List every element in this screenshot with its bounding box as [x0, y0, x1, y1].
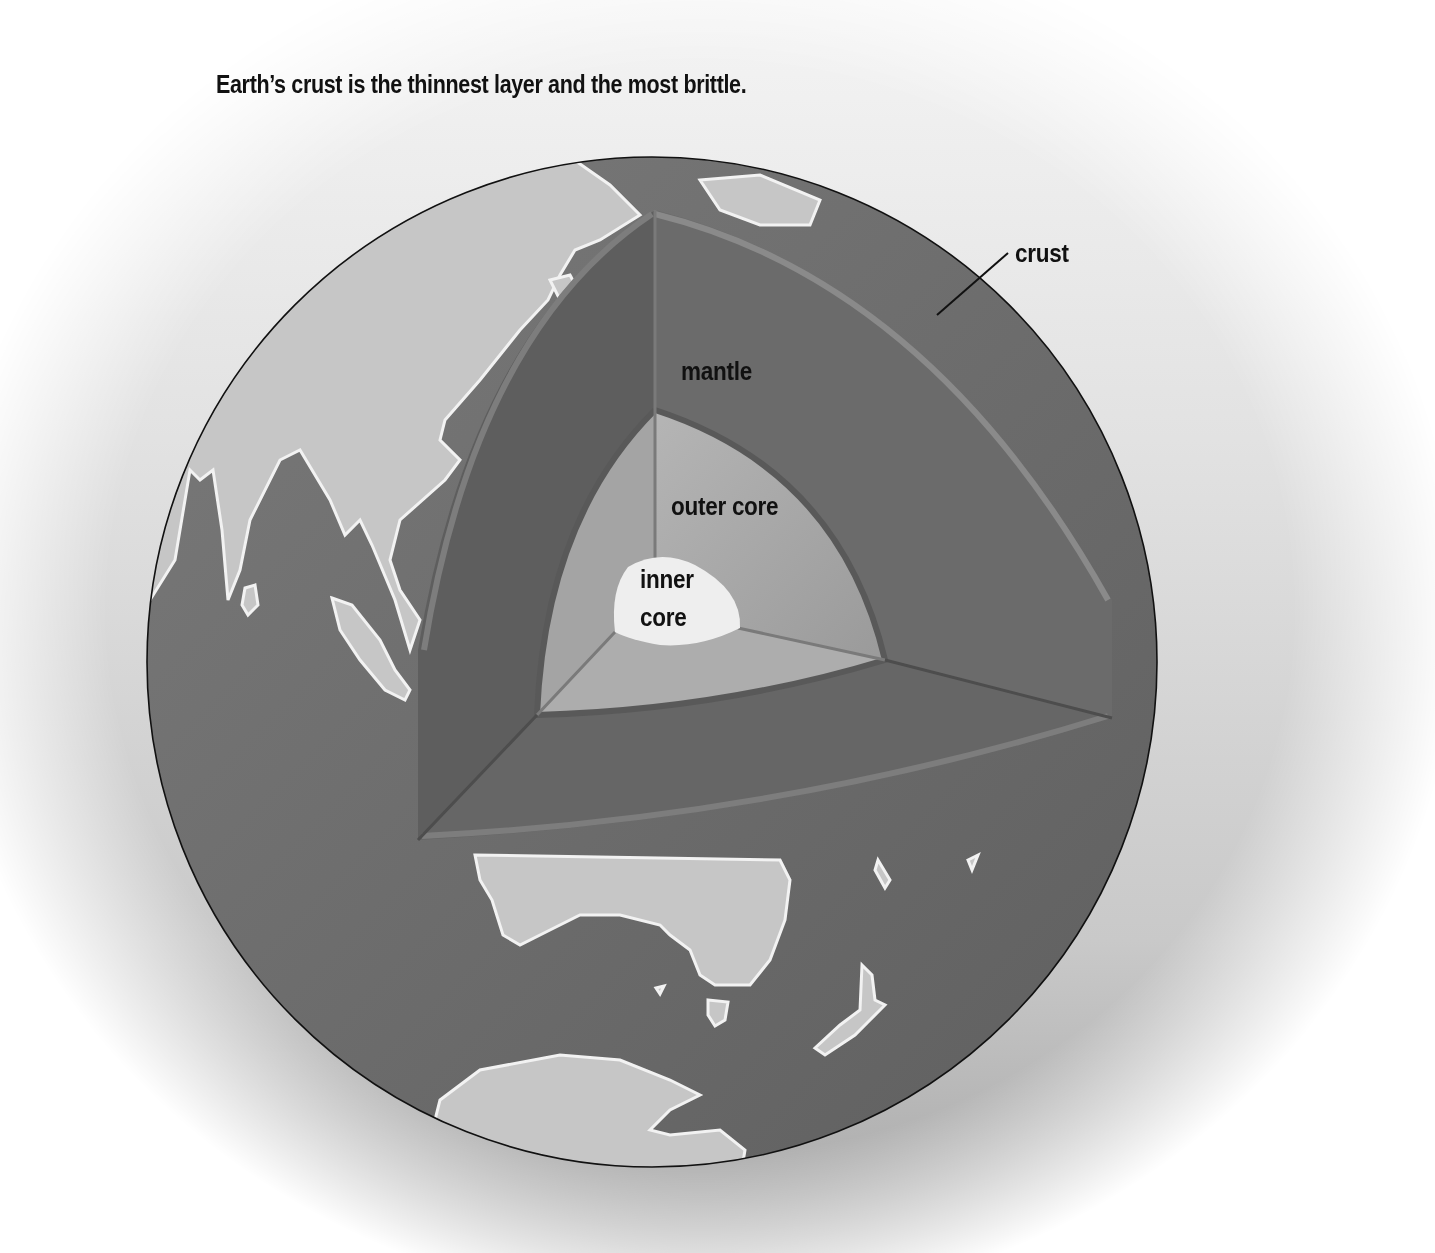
crust-label: crust [1015, 235, 1069, 271]
earth-layers-diagram [0, 0, 1435, 1253]
mantle-label: mantle [681, 353, 752, 389]
outer-core-label: outer core [671, 488, 778, 524]
inner-core-label-line1: inner [640, 561, 694, 597]
inner-core-label-line2: core [640, 599, 686, 635]
